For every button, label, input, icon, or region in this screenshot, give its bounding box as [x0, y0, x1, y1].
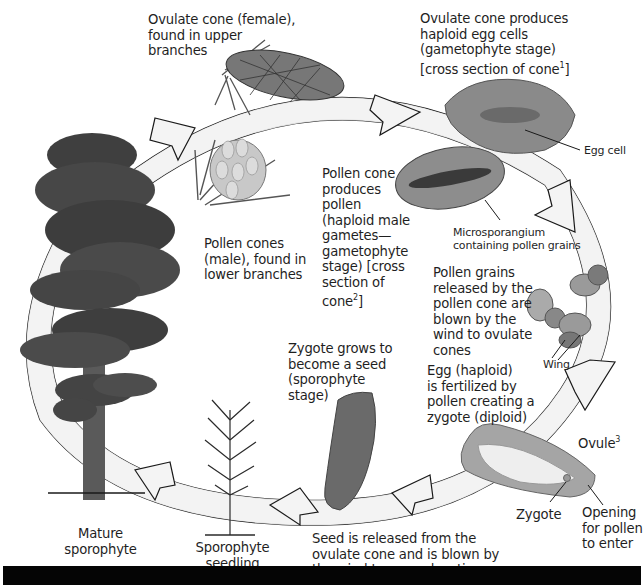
pollen-cone-bump — [246, 157, 258, 175]
label-bracket-close: ] — [564, 62, 569, 77]
footnote-3: 3 — [615, 435, 620, 444]
pollen-grain — [559, 332, 581, 348]
pollen-cone-bump — [232, 163, 244, 181]
label-zygote: Zygote — [516, 507, 561, 523]
pollen-cone-bump — [216, 161, 228, 179]
opening-leader — [588, 485, 603, 505]
label-egg-cell: Egg cell — [584, 144, 626, 157]
label-ovulate-egg-cells-text: Ovulate cone produces haploid egg cells … — [420, 11, 568, 77]
foliage-clump — [20, 332, 130, 368]
zygote-dot — [564, 475, 571, 482]
label-zygote-grows: Zygote grows to become a seed (sporophyt… — [288, 341, 392, 403]
label-microsporangium: Microsporangium containing pollen grains — [453, 226, 581, 252]
foliage-clump — [30, 270, 140, 310]
foliage-clump — [53, 398, 97, 422]
label-ovule: Ovule3 — [578, 432, 620, 452]
pollen-cone-bump — [236, 139, 248, 157]
label-ovulate-egg-cells: Ovulate cone produces haploid egg cells … — [420, 11, 569, 77]
bottom-black-bar — [3, 566, 641, 585]
label-ovulate-cone: Ovulate cone (female), found in upper br… — [148, 12, 295, 59]
label-pollen-grains: Pollen grains released by the pollen con… — [433, 265, 533, 358]
label-bracket-close: ] — [358, 294, 363, 309]
label-egg-fertilized: Egg (haploid) is fertilized by pollen cr… — [427, 363, 534, 425]
microsporangium-leader — [485, 200, 500, 220]
pollen-grain — [588, 265, 608, 285]
label-pollen-cones: Pollen cones (male), found in lower bran… — [204, 236, 306, 283]
pine-life-cycle-diagram: Ovulate cone (female), found in upper br… — [0, 0, 644, 585]
arrowhead-right-upper — [535, 180, 575, 232]
arrowhead-top-center — [370, 95, 420, 135]
foliage-clump — [93, 373, 157, 397]
pollen-cone-bump — [222, 141, 234, 159]
pollen-cone-bump — [226, 181, 238, 199]
label-pollen-cone-produces: Pollen cone produces pollen (haploid mal… — [322, 166, 410, 310]
cross-section-core — [480, 107, 540, 123]
label-pollen-cone-produces-text: Pollen cone produces pollen (haploid mal… — [322, 166, 410, 309]
wing-leader — [552, 340, 565, 358]
seed-body — [325, 392, 376, 510]
label-ovule-text: Ovule — [578, 436, 615, 451]
label-opening-for-pollen: Opening for pollen to enter — [582, 505, 643, 552]
seed-image — [325, 392, 376, 510]
label-wing: Wing — [543, 358, 570, 371]
label-mature-sporophyte: Mature sporophyte — [58, 526, 143, 557]
